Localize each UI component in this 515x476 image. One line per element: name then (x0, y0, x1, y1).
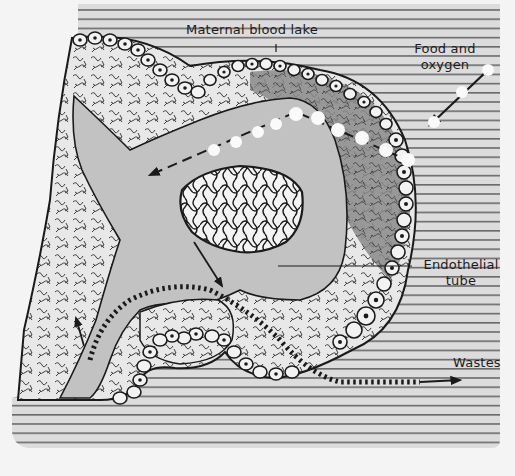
label-food-and-oxygen-line1: Food and (400, 41, 490, 57)
label-food-and-oxygen: Food and oxygen (400, 41, 490, 73)
label-endothelial-tube-line2: tube (412, 273, 510, 289)
label-endothelial-tube-line1: Endothelial (412, 257, 510, 273)
label-wastes: Wastes (453, 355, 501, 371)
label-maternal-blood-lake: Maternal blood lake (186, 22, 318, 38)
label-endothelial-tube: Endothelial tube (412, 257, 510, 289)
label-food-and-oxygen-line2: oxygen (400, 57, 490, 73)
